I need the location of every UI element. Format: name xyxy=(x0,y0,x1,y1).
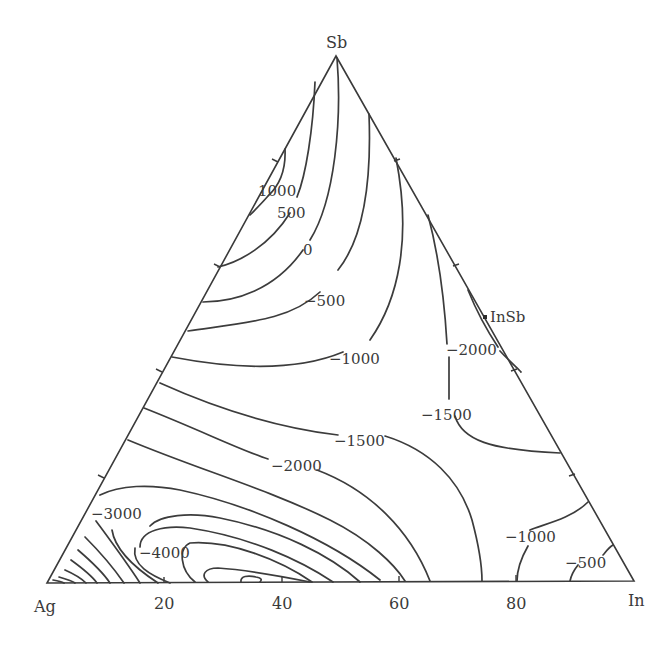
contour-label: −3000 xyxy=(91,505,142,523)
contour-lobe-6 xyxy=(241,576,261,582)
contour-labels: 1000 500 0 −500 −1000 −1500 −2000 −3000 … xyxy=(91,182,606,572)
contour-label: −1500 xyxy=(334,432,385,450)
contour-label: 1000 xyxy=(258,182,296,200)
contour-label: −500 xyxy=(304,292,345,310)
contour-label: −1500 xyxy=(421,406,472,424)
axis-tick-label: 40 xyxy=(272,594,292,613)
insb-compound-marker: InSb xyxy=(483,308,525,326)
contour-label: 500 xyxy=(277,204,306,222)
contour-label: −500 xyxy=(565,554,606,572)
contour-label: −1000 xyxy=(329,350,380,368)
axis-tick-label: 60 xyxy=(389,594,409,613)
contour-fan-4 xyxy=(65,570,86,583)
contour-fan-2 xyxy=(78,550,110,583)
insb-point-icon xyxy=(483,315,487,319)
axis-tick-label: 80 xyxy=(506,594,526,613)
contour-500 xyxy=(218,82,315,267)
contour-label: −2000 xyxy=(446,341,497,359)
axis-tick-label: 20 xyxy=(154,594,174,613)
left-edge-ticks xyxy=(98,159,278,478)
vertex-label-ag: Ag xyxy=(33,597,56,616)
contour-label: −2000 xyxy=(271,457,322,475)
ternary-triangle-frame xyxy=(47,56,634,583)
contour-label: 0 xyxy=(303,241,313,259)
vertex-label-in: In xyxy=(628,591,645,610)
insb-label: InSb xyxy=(490,308,525,326)
vertex-label-sb: Sb xyxy=(326,33,347,52)
contour-label: −1000 xyxy=(505,528,556,546)
ternary-contour-diagram: 1000 500 0 −500 −1000 −1500 −2000 −3000 … xyxy=(0,0,672,650)
contour-label: −4000 xyxy=(139,544,190,562)
bottom-axis-labels: 20 40 60 80 xyxy=(154,594,526,613)
contour-neg1500-right xyxy=(449,357,560,453)
